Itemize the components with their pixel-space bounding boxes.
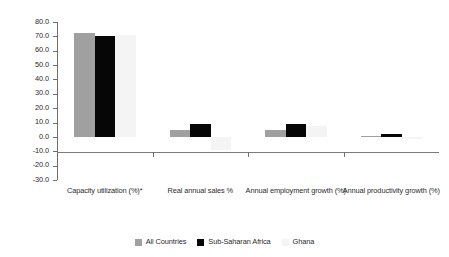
y-axis-tick-label: -20.0 xyxy=(9,161,49,169)
y-axis-tick-label: 10.0 xyxy=(9,118,49,126)
y-axis-tick-label: 80.0 xyxy=(9,18,49,26)
bar xyxy=(95,36,116,137)
y-axis-tick-label: -30.0 xyxy=(9,176,49,184)
bar xyxy=(74,33,95,136)
chart-legend: All CountriesSub-Saharan AfricaGhana xyxy=(0,238,449,246)
y-axis-tick-mark xyxy=(53,79,57,80)
bar xyxy=(402,137,423,139)
legend-label: All Countries xyxy=(146,238,187,246)
y-axis-tick-mark xyxy=(53,65,57,66)
legend-swatch-icon xyxy=(135,239,142,246)
bar xyxy=(306,126,327,137)
bar xyxy=(211,137,232,150)
y-axis-tick-mark xyxy=(53,123,57,124)
bar xyxy=(381,134,402,137)
category-separator-tick xyxy=(248,152,249,157)
y-axis-tick-label: 50.0 xyxy=(9,61,49,69)
y-axis-tick-mark xyxy=(53,137,57,138)
y-axis-tick-label: -10.0 xyxy=(9,147,49,155)
y-axis-tick-mark xyxy=(53,166,57,167)
legend-item[interactable]: Ghana xyxy=(282,238,315,246)
bar xyxy=(265,130,286,137)
y-axis-tick-mark xyxy=(53,51,57,52)
y-axis-tick-label: 20.0 xyxy=(9,104,49,112)
bar xyxy=(115,35,136,137)
bar xyxy=(190,124,211,137)
category-label: Annual productivity growth (%) xyxy=(332,186,449,196)
legend-swatch-icon xyxy=(282,239,289,246)
y-axis-tick-label: 60.0 xyxy=(9,46,49,54)
legend-item[interactable]: All Countries xyxy=(135,238,187,246)
bar-chart: 80.070.060.050.040.030.020.010.00.0-10.0… xyxy=(0,0,449,257)
legend-item[interactable]: Sub-Saharan Africa xyxy=(197,238,270,246)
legend-label: Sub-Saharan Africa xyxy=(208,238,270,246)
y-axis-tick-mark xyxy=(53,151,57,152)
category-separator-tick xyxy=(153,152,154,157)
category-separator-tick xyxy=(344,152,345,157)
y-axis-tick-mark xyxy=(53,36,57,37)
y-axis-tick-mark xyxy=(53,108,57,109)
legend-label: Ghana xyxy=(293,238,315,246)
legend-swatch-icon xyxy=(197,239,204,246)
bar xyxy=(361,136,382,137)
y-axis-line xyxy=(57,22,58,180)
y-axis-tick-label: 0.0 xyxy=(9,133,49,141)
y-axis-tick-mark xyxy=(53,180,57,181)
bar xyxy=(170,130,191,136)
bar xyxy=(286,124,307,137)
y-axis-tick-label: 40.0 xyxy=(9,75,49,83)
y-axis-tick-mark xyxy=(53,22,57,23)
y-axis-tick-mark xyxy=(53,94,57,95)
y-axis-tick-label: 30.0 xyxy=(9,89,49,97)
y-axis-tick-label: 70.0 xyxy=(9,32,49,40)
